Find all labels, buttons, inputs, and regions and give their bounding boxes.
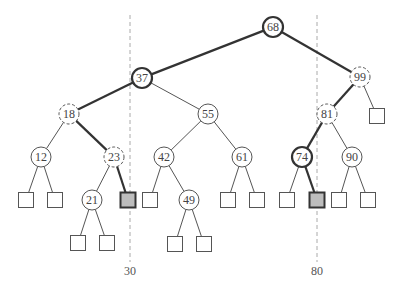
node-label: 81	[321, 107, 333, 121]
node-label: 37	[136, 71, 148, 85]
tree-node-81: 81	[317, 104, 337, 124]
boundary-labels: 30 80	[124, 264, 323, 278]
tree-node-49: 49	[179, 190, 199, 210]
edge-n74-l74a	[290, 166, 299, 192]
edge-n21-l21b	[95, 209, 104, 235]
edge-n55-n42	[171, 121, 201, 150]
edge-n61-l61a	[230, 167, 238, 193]
tree-nodes: 6837991855811223426174902149	[31, 17, 370, 210]
high-boundary-label: 80	[311, 264, 323, 278]
shaded-leaf-square	[121, 193, 136, 208]
edge-n23-n21	[97, 166, 110, 191]
edge-n18-n23	[76, 121, 107, 150]
leaf-square	[250, 193, 265, 208]
tree-node-42: 42	[154, 147, 174, 167]
node-label: 55	[202, 107, 214, 121]
tree-leaves	[19, 109, 385, 252]
tree-node-18: 18	[59, 104, 79, 124]
edge-n55-n61	[214, 122, 236, 149]
node-label: 90	[346, 150, 358, 164]
tree-node-61: 61	[232, 147, 252, 167]
leaf-square	[221, 193, 236, 208]
node-label: 21	[86, 193, 98, 207]
edge-n81-n74	[307, 123, 322, 149]
edge-n42-n49	[169, 166, 184, 192]
tree-node-90: 90	[342, 147, 362, 167]
edge-n99-n81	[334, 84, 354, 106]
edge-n23-l23r	[117, 167, 125, 193]
tree-node-23: 23	[104, 147, 124, 167]
edge-n49-l49a	[177, 210, 186, 237]
tree-node-99: 99	[350, 67, 370, 87]
edge-n42-l42a	[152, 167, 160, 193]
tree-node-74: 74	[292, 147, 312, 167]
tree-node-21: 21	[82, 190, 102, 210]
node-label: 68	[267, 20, 279, 34]
leaf-square	[168, 237, 183, 252]
node-label: 18	[63, 107, 75, 121]
node-label: 42	[158, 150, 170, 164]
leaf-square	[100, 236, 115, 251]
edge-n74-l74b	[305, 166, 314, 192]
tree-node-55: 55	[198, 104, 218, 124]
node-label: 23	[108, 150, 120, 164]
node-label: 99	[354, 70, 366, 84]
leaf-square	[143, 193, 158, 208]
edge-n18-n12	[46, 122, 63, 148]
edge-n12-l12b	[44, 167, 52, 193]
tree-node-68: 68	[263, 17, 283, 37]
edge-n81-n90	[332, 123, 347, 149]
leaf-square	[332, 193, 347, 208]
edge-n37-n55	[151, 83, 199, 109]
shaded-leaf-square	[310, 193, 325, 208]
clipped-caption-line: ​	[0, 284, 393, 290]
node-label: 74	[296, 150, 308, 164]
leaf-square	[370, 109, 385, 124]
edge-n61-l61b	[245, 166, 254, 192]
leaf-square	[197, 237, 212, 252]
node-label: 49	[183, 193, 195, 207]
leaf-square	[48, 193, 63, 208]
low-boundary-label: 30	[124, 264, 136, 278]
edge-n90-l90a	[341, 167, 349, 193]
node-label: 61	[236, 150, 248, 164]
leaf-square	[361, 193, 376, 208]
edge-n99-l99r	[364, 86, 374, 108]
edge-n49-l49b	[192, 209, 201, 236]
edge-n21-l21a	[80, 210, 88, 236]
range-query-tree-diagram: 6837991855811223426174902149 30 80	[0, 0, 393, 290]
leaf-square	[19, 193, 34, 208]
query-boundary-lines	[130, 15, 317, 262]
tree-node-37: 37	[132, 68, 152, 88]
leaf-square	[71, 236, 86, 251]
edge-n90-l90b	[355, 166, 365, 192]
leaf-square	[280, 193, 295, 208]
edge-n37-n18	[78, 82, 133, 109]
node-label: 12	[35, 150, 47, 164]
edge-n68-n37	[151, 31, 263, 75]
edge-n12-l12a	[29, 166, 38, 192]
tree-node-12: 12	[31, 147, 51, 167]
